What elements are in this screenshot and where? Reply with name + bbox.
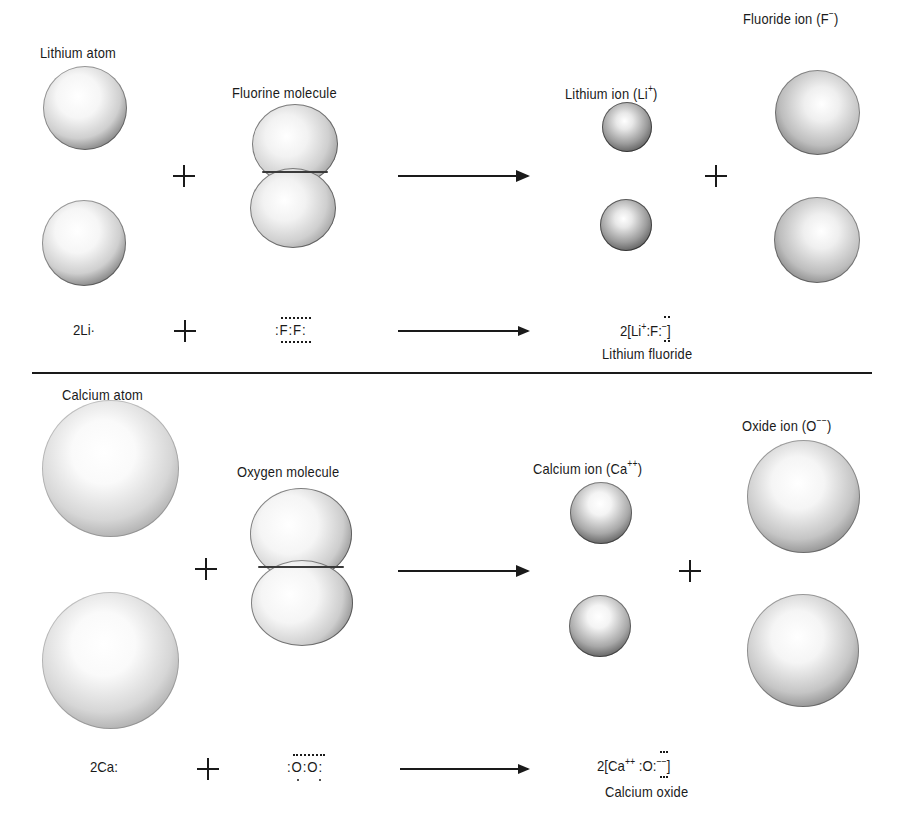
lone-pair-dots-bottom [660,776,668,780]
bond-seam [258,566,344,568]
fluorine-molecule-label: Fluorine molecule [232,84,337,101]
calcium-oxide-name: Calcium oxide [605,783,688,800]
lone-pair-dots-top [660,751,668,755]
lithium-atom-label: Lithium atom [40,44,116,61]
fluorine-atom-lower [250,168,336,248]
lithium-ion-label: Lithium ion (Li+) [565,85,658,102]
lithium-fluoride-name: Lithium fluoride [602,345,692,362]
plus-sign-icon [173,165,195,187]
lithium-atom-sphere-2 [42,200,126,286]
plus-sign-icon [195,558,217,580]
plus-sign-icon [705,165,727,187]
lithium-ion-sphere-2 [600,199,652,251]
calcium-ion-sphere-1 [570,482,632,544]
oxide-ion-label: Oxide ion (O−−) [742,417,831,434]
fluoride-ion-label: Fluoride ion (F−) [743,10,838,27]
plus-sign-icon [174,320,192,338]
reaction-arrow-icon [398,570,528,572]
reaction-arrow-icon [398,330,528,332]
lone-pair-dots-top [281,317,311,321]
oxygen-lewis-formula: :O:O: [287,758,323,775]
lone-pair-dots-bottom [281,341,311,345]
calcium-atom-sphere-1 [42,400,179,537]
section-divider [32,372,872,374]
lone-pair-dot [297,779,299,781]
lone-pair-dot [319,779,321,781]
calcium-oxide-formula: 2[Ca++ :O:−−] [597,757,670,774]
plus-sign-icon [679,560,701,582]
calcium-ion-sphere-2 [569,595,631,657]
calcium-lewis-formula: 2Ca: [90,758,118,775]
oxygen-atom-lower [251,560,353,646]
oxide-ion-sphere-2 [747,594,859,707]
lone-pair-dots-top [664,316,670,320]
lithium-fluoride-formula: 2[Li+:F:−] [620,322,671,339]
oxygen-molecule-label: Oxygen molecule [237,463,339,480]
lithium-lewis-formula: 2Li· [73,321,95,338]
lone-pair-dots-top [293,754,325,758]
lithium-atom-sphere-1 [43,66,127,150]
calcium-atom-sphere-2 [42,592,179,729]
oxide-ion-sphere-1 [747,440,860,553]
reaction-arrow-icon [398,175,528,177]
fluoride-ion-sphere-2 [774,197,860,283]
lithium-ion-sphere-1 [602,102,652,152]
calcium-ion-label: Calcium ion (Ca++) [533,460,642,477]
fluorine-lewis-formula: :F:F: [275,321,307,338]
fluoride-ion-sphere-1 [775,70,860,155]
reaction-arrow-icon [400,768,528,770]
lone-pair-dots-bottom [664,340,670,344]
plus-sign-icon [197,758,215,776]
bond-seam [262,171,328,173]
